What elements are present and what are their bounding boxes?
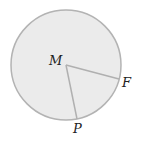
label-p: P (72, 121, 82, 136)
circle-diagram: M F P (0, 0, 141, 145)
label-f: F (121, 75, 132, 90)
label-m: M (48, 53, 63, 68)
